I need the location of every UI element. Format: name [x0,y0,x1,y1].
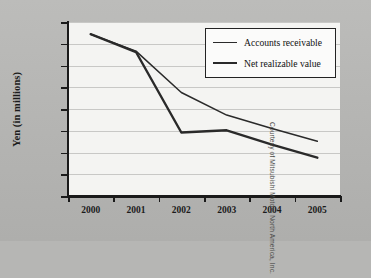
credit-text: Courtesy of Mitsubishi Motors North Amer… [269,122,276,278]
y-tick-mark [61,196,68,198]
x-tick-label: 2001 [113,205,159,215]
y-tick-mark [61,153,68,155]
y-tick-mark [61,87,68,89]
y-tick-mark [61,131,68,133]
legend-label-accounts-receivable: Accounts receivable [244,37,322,48]
y-tick-mark [61,44,68,46]
x-tick-mark [249,196,251,202]
legend-item-accounts-receivable: Accounts receivable [213,35,322,49]
x-tick-label: 2003 [204,205,250,215]
x-tick-mark [340,196,342,202]
legend-item-net-realizable-value: Net realizable value [213,56,321,70]
y-tick-mark [61,66,68,68]
y-axis-title: Yen (in millions) [11,30,22,190]
y-tick-mark [61,109,68,111]
x-tick-label: 2000 [68,205,114,215]
legend-label-net-realizable-value: Net realizable value [244,58,321,69]
x-tick-mark [68,196,70,202]
x-tick-mark [295,196,297,202]
x-tick-mark [159,196,161,202]
legend: Accounts receivable Net realizable value [205,28,336,78]
legend-line-swatch-accounts-receivable [213,42,237,43]
legend-line-swatch-net-realizable-value [213,62,237,64]
x-tick-label: 2005 [294,205,340,215]
y-tick-mark [61,22,68,24]
x-tick-mark [204,196,206,202]
x-tick-mark [113,196,115,202]
x-tick-label: 2002 [158,205,204,215]
y-tick-mark [61,174,68,176]
